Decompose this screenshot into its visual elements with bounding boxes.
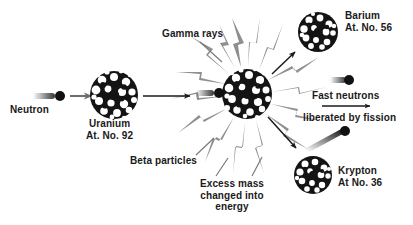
- arrow-to-barium: [272, 52, 295, 74]
- incoming-neutron: [33, 91, 65, 101]
- label-excess-mass: Excess mass changed into energy: [190, 178, 274, 213]
- label-liberated-by-fission: liberated by fission: [303, 112, 396, 124]
- fission-nucleus: [222, 67, 272, 119]
- label-barium: Barium At. No. 56: [345, 10, 392, 33]
- label-uranium-number: At. No. 92: [86, 130, 133, 142]
- leader-excess-right: [252, 157, 262, 176]
- label-excess-line2: changed into: [190, 190, 274, 202]
- arrow-to-krypton: [268, 117, 296, 148]
- label-gamma-rays: Gamma rays: [162, 28, 223, 40]
- label-barium-name: Barium: [345, 10, 392, 22]
- fission-diagram: Neutron Uranium At. No. 92 Gamma rays Be…: [0, 0, 413, 225]
- fast-neutron-upper: [330, 75, 354, 85]
- label-uranium-name: Uranium: [86, 118, 133, 130]
- fast-neutron-lower: [306, 126, 350, 151]
- label-fast-neutrons: Fast neutrons: [312, 90, 379, 102]
- captured-neutron: [196, 88, 224, 98]
- label-barium-number: At. No. 56: [345, 22, 392, 34]
- label-krypton-number: At No. 36: [338, 177, 382, 189]
- label-neutron: Neutron: [10, 104, 49, 116]
- leader-excess-left: [216, 158, 228, 176]
- barium-nucleus: [298, 12, 338, 52]
- label-beta-particles: Beta particles: [130, 155, 197, 167]
- label-excess-line3: energy: [190, 201, 274, 213]
- label-uranium: Uranium At. No. 92: [86, 118, 133, 141]
- label-krypton: Krypton At No. 36: [338, 165, 382, 188]
- uranium-nucleus: [90, 69, 138, 121]
- label-excess-line1: Excess mass: [190, 178, 274, 190]
- label-krypton-name: Krypton: [338, 165, 382, 177]
- krypton-nucleus: [294, 156, 332, 194]
